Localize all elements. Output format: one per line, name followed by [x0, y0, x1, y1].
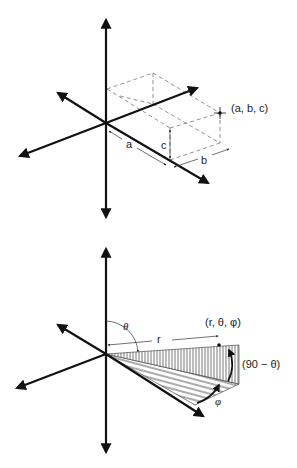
- y-axis-negative: [20, 123, 106, 156]
- dimension-c-label: c: [161, 139, 167, 151]
- x-axis-negative: [58, 93, 106, 123]
- point-label: (a, b, c): [231, 102, 268, 114]
- y-axis: [106, 88, 197, 123]
- x-axis: [106, 123, 208, 183]
- x-axis-negative: [58, 325, 106, 354]
- dimension-b-label: b: [201, 154, 207, 166]
- dimension-a-label: a: [126, 138, 133, 150]
- theta-label: θ: [123, 320, 129, 332]
- spherical-panel: θ r (r, θ, φ) (90 − θ) φ: [17, 249, 280, 452]
- cartesian-panel: (a, b, c) a c b: [20, 20, 268, 217]
- complement-angle-label: (90 − θ): [242, 358, 280, 370]
- y-axis-negative: [17, 354, 106, 388]
- radius-label: r: [157, 333, 161, 345]
- theta-arc: [106, 321, 138, 352]
- point-label: (r, θ, φ): [205, 316, 241, 328]
- phi-label: φ: [215, 395, 221, 407]
- point-marker: [217, 343, 221, 347]
- coordinate-systems-figure: (a, b, c) a c b θ r (r, θ, φ): [0, 0, 297, 468]
- point-marker: [214, 107, 226, 119]
